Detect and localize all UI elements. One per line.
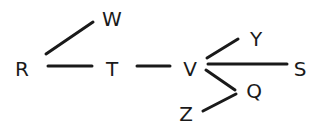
- node-z: Z: [179, 102, 193, 126]
- edge-v-q: [206, 70, 235, 90]
- node-q: Q: [246, 79, 262, 103]
- node-s: S: [294, 57, 307, 81]
- edge-r-w: [46, 22, 93, 54]
- node-t: T: [105, 57, 119, 81]
- node-r: R: [15, 57, 29, 81]
- edge-v-y: [207, 39, 238, 58]
- edge-q-z: [203, 94, 236, 111]
- node-w: W: [102, 7, 122, 31]
- diagram-svg: RWTVYSQZ: [0, 0, 323, 129]
- node-v: V: [183, 57, 197, 81]
- tree-diagram: RWTVYSQZ: [0, 0, 323, 129]
- node-y: Y: [249, 27, 263, 51]
